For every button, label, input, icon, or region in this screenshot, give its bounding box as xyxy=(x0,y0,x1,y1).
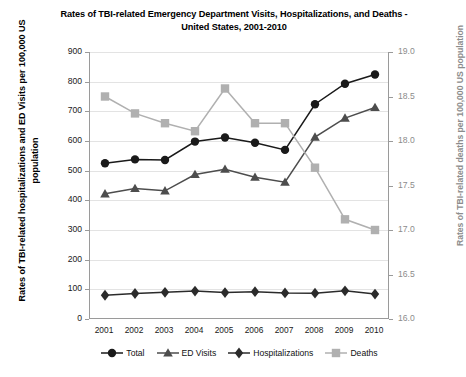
y-axis-tickmark-right xyxy=(389,52,393,53)
data-point xyxy=(101,290,109,301)
series-line xyxy=(105,291,375,295)
data-point xyxy=(311,164,319,172)
y-axis-tick-right: 17.5 xyxy=(398,180,438,190)
y-axis-label-left: Rates of TBI-related hospitalizations an… xyxy=(16,11,41,311)
data-point xyxy=(311,288,319,299)
data-point xyxy=(191,286,199,297)
legend-marker-circle-icon xyxy=(100,347,124,359)
series-ed-visits xyxy=(100,103,380,198)
y-axis-tick-right: 18.5 xyxy=(398,91,438,101)
data-point xyxy=(371,226,379,234)
y-axis-tick-left: 100 xyxy=(42,283,82,293)
y-axis-tick-right: 16.5 xyxy=(398,269,438,279)
y-axis-tickmark-right xyxy=(389,230,393,231)
y-axis-tick-left: 600 xyxy=(42,135,82,145)
data-point xyxy=(311,100,319,108)
data-point xyxy=(161,119,169,127)
y-axis-tickmark-left xyxy=(85,230,89,231)
y-axis-tick-left: 900 xyxy=(42,46,82,56)
y-axis-tickmark-left xyxy=(85,141,89,142)
data-point xyxy=(221,133,229,141)
legend-item-hospitalizations[interactable]: Hospitalizations xyxy=(227,347,313,359)
y-axis-tickmark-left xyxy=(85,82,89,83)
y-axis-tickmark-left xyxy=(85,289,89,290)
data-point xyxy=(251,139,259,147)
chart-title-line-2: United States, 2001-2010 xyxy=(181,22,286,32)
y-axis-tick-right: 16.0 xyxy=(398,313,438,323)
y-axis-tickmark-left xyxy=(85,52,89,53)
y-axis-tickmark-right xyxy=(389,97,393,98)
data-point xyxy=(131,288,139,299)
legend-label: Total xyxy=(126,348,144,358)
legend-item-ed-visits[interactable]: ED Visits xyxy=(156,347,217,359)
data-point xyxy=(281,119,289,127)
data-point xyxy=(131,109,139,117)
data-point xyxy=(161,287,169,298)
y-axis-tickmark-right xyxy=(389,141,393,142)
data-point xyxy=(251,119,259,127)
y-axis-tickmark-right xyxy=(389,319,393,320)
y-axis-tick-right: 18.0 xyxy=(398,135,438,145)
plot-area xyxy=(89,52,389,319)
y-axis-tick-right: 19.0 xyxy=(398,46,438,56)
y-axis-tickmark-right xyxy=(389,186,393,187)
series-total xyxy=(101,70,379,167)
legend-item-total[interactable]: Total xyxy=(100,347,144,359)
data-point xyxy=(371,70,379,78)
data-point xyxy=(191,137,199,145)
y-axis-tick-left: 400 xyxy=(42,194,82,204)
y-axis-tick-right: 17.0 xyxy=(398,224,438,234)
legend-marker-triangle-icon xyxy=(156,347,180,359)
y-axis-tick-left: 800 xyxy=(42,76,82,86)
data-point xyxy=(281,146,289,154)
series-hospitalizations xyxy=(101,285,379,300)
data-point xyxy=(341,285,349,296)
data-point xyxy=(341,80,349,88)
data-point xyxy=(161,156,169,164)
legend-marker-square-icon xyxy=(324,347,348,359)
legend-label: ED Visits xyxy=(182,348,217,358)
legend-item-deaths[interactable]: Deaths xyxy=(324,347,377,359)
data-point xyxy=(130,184,140,192)
series-line xyxy=(105,107,375,193)
data-point xyxy=(251,286,259,297)
chart-legend: TotalED VisitsHospitalizationsDeaths xyxy=(89,347,389,359)
legend-label: Deaths xyxy=(350,348,377,358)
data-point xyxy=(221,84,229,92)
data-point xyxy=(101,92,109,100)
series-layer xyxy=(90,52,390,319)
data-point xyxy=(131,155,139,163)
y-axis-tickmark-right xyxy=(389,275,393,276)
y-axis-tickmark-left xyxy=(85,260,89,261)
y-axis-tick-left: 200 xyxy=(42,254,82,264)
data-point xyxy=(370,103,380,111)
y-axis-tickmark-left xyxy=(85,171,89,172)
data-point xyxy=(371,289,379,300)
y-axis-tick-left: 700 xyxy=(42,105,82,115)
data-point xyxy=(281,287,289,298)
y-axis-tick-left: 0 xyxy=(42,313,82,323)
series-line xyxy=(105,75,375,164)
y-axis-tick-left: 500 xyxy=(42,165,82,175)
legend-marker-diamond-icon xyxy=(227,347,251,359)
chart-title-line-1: Rates of TBI-related Emergency Departmen… xyxy=(60,9,407,19)
data-point xyxy=(310,132,320,140)
y-axis-label-right: Rates of TBI-related deaths per 100,000 … xyxy=(455,6,466,266)
chart-title: Rates of TBI-related Emergency Departmen… xyxy=(38,8,430,34)
legend-label: Hospitalizations xyxy=(253,348,313,358)
y-axis-tick-left: 300 xyxy=(42,224,82,234)
data-point xyxy=(220,164,230,172)
y-axis-tickmark-left xyxy=(85,319,89,320)
y-axis-tickmark-left xyxy=(85,200,89,201)
data-point xyxy=(101,159,109,167)
y-axis-tickmark-left xyxy=(85,111,89,112)
x-axis-tick: 2010 xyxy=(354,325,394,335)
data-point xyxy=(341,215,349,223)
data-point xyxy=(221,287,229,298)
data-point xyxy=(191,127,199,135)
